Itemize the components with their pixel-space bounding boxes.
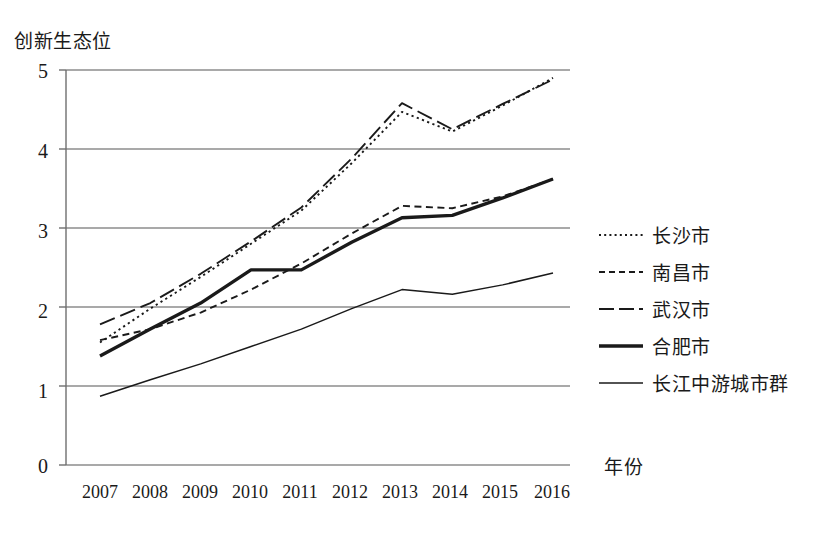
series-line [100, 78, 553, 343]
axis-ticks [59, 70, 66, 465]
legend-swatch-dashed-long [598, 302, 644, 316]
legend-item-yangtze-middle-urban-agglomeration[interactable]: 长江中游城市群 [598, 364, 826, 401]
legend-label-yangtze: 长江中游城市群 [652, 369, 789, 396]
data-series-group [100, 78, 553, 396]
legend-label-nanchang: 南昌市 [652, 258, 711, 285]
legend-swatch-dashed-short [598, 265, 644, 279]
gridlines [66, 70, 570, 465]
legend-swatch-solid-thin [598, 376, 644, 390]
legend: 长沙市 南昌市 武汉市 合肥市 长江中游城市群 [598, 216, 826, 401]
series-line [100, 273, 553, 396]
legend-label-wuhan: 武汉市 [652, 295, 711, 322]
legend-item-wuhan[interactable]: 武汉市 [598, 290, 826, 327]
legend-label-hefei: 合肥市 [652, 332, 711, 359]
legend-swatch-solid-thick [598, 339, 644, 353]
legend-item-changsha[interactable]: 长沙市 [598, 216, 826, 253]
legend-item-hefei[interactable]: 合肥市 [598, 327, 826, 364]
legend-item-nanchang[interactable]: 南昌市 [598, 253, 826, 290]
chart-container: 创新生态位 年份 5 4 3 2 1 0 2007 2008 2009 2010… [0, 0, 828, 539]
legend-swatch-dotted [598, 228, 644, 242]
legend-label-changsha: 长沙市 [652, 221, 711, 248]
series-line [100, 179, 553, 356]
